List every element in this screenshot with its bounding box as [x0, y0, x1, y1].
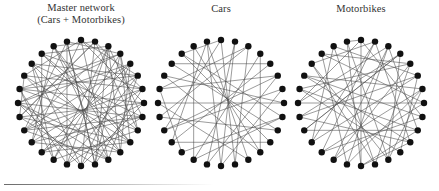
graph-node [78, 37, 84, 43]
graph-node [245, 43, 251, 49]
graph-node [105, 157, 111, 163]
graph-edge [207, 76, 278, 165]
graph-edge [108, 76, 137, 160]
graph-node [105, 43, 111, 49]
graph-node [135, 72, 141, 78]
graph-edge [20, 54, 121, 89]
graph-node [16, 86, 22, 92]
panel-master-network: Master network (Cars + Motorbikes) [8, 0, 154, 185]
graph-edge [20, 76, 25, 117]
graph-node [281, 100, 287, 106]
graph-node [419, 114, 425, 120]
graph-node [421, 100, 427, 106]
graph-node [245, 157, 251, 163]
graph-node [16, 114, 22, 120]
graph-node [78, 163, 84, 169]
graph-node [397, 51, 403, 57]
graph-node [29, 61, 35, 67]
graph-node [257, 51, 263, 57]
graph-node [397, 149, 403, 155]
graph-node [190, 43, 196, 49]
graph-node [117, 149, 123, 155]
graph-node [358, 163, 364, 169]
panel-motorbikes: Motorbikes [288, 0, 434, 185]
graph-node [295, 100, 301, 106]
graph-edge [95, 54, 120, 165]
graph-node [385, 157, 391, 163]
graph-node [275, 127, 281, 133]
graph-node [279, 114, 285, 120]
graph-node [156, 86, 162, 92]
graph-node [232, 38, 238, 44]
graph-node [169, 61, 175, 67]
graph-node [179, 51, 185, 57]
graph-node [344, 38, 350, 44]
graph-node [50, 157, 56, 163]
graph-node [156, 114, 162, 120]
graph-node [169, 139, 175, 145]
graph-edge [172, 42, 207, 143]
graph-node [92, 161, 98, 167]
graph-node [330, 157, 336, 163]
graph-motorbikes [288, 30, 434, 180]
graph-node [296, 86, 302, 92]
graph-node [50, 43, 56, 49]
graph-node [141, 100, 147, 106]
graph-node [21, 127, 27, 133]
network-figure: Master network (Cars + Motorbikes) Cars … [0, 0, 439, 191]
graph-cars [148, 30, 294, 180]
graph-node [204, 38, 210, 44]
graph-node [415, 72, 421, 78]
graph-node [257, 149, 263, 155]
graph-node [39, 149, 45, 155]
graph-svg-master-network [8, 30, 154, 180]
graph-edge [18, 103, 81, 166]
graph-edge [347, 46, 388, 164]
graph-node [64, 161, 70, 167]
graph-node [419, 86, 425, 92]
graph-node [407, 61, 413, 67]
graph-edge [160, 46, 249, 117]
panel-title-master-network: Master network (Cars + Motorbikes) [8, 2, 154, 26]
graph-node [127, 61, 133, 67]
graph-node [319, 51, 325, 57]
graph-node [415, 127, 421, 133]
panel-cars: Cars [148, 0, 294, 185]
graph-node [92, 38, 98, 44]
graph-node [267, 139, 273, 145]
graph-edge [182, 40, 221, 54]
graph-node [372, 38, 378, 44]
graph-node [296, 114, 302, 120]
graph-edge [95, 42, 142, 89]
graph-node [139, 86, 145, 92]
graph-edge [81, 40, 144, 103]
panel-title-motorbikes: Motorbikes [288, 3, 434, 15]
graph-node [190, 157, 196, 163]
graph-node [275, 72, 281, 78]
graph-edge [298, 40, 361, 103]
graph-node [232, 161, 238, 167]
graph-node [267, 61, 273, 67]
graph-node [39, 51, 45, 57]
graph-node [117, 51, 123, 57]
graph-node [319, 149, 325, 155]
graph-node [218, 163, 224, 169]
graph-node [279, 86, 285, 92]
graph-node [155, 100, 161, 106]
graph-edge [388, 46, 417, 130]
graph-node [179, 149, 185, 155]
graph-svg-motorbikes [288, 30, 434, 180]
graph-node [358, 37, 364, 43]
edge-group-motorbikes [298, 40, 424, 166]
graph-node [309, 139, 315, 145]
graph-node [407, 139, 413, 145]
graph-node [29, 139, 35, 145]
graph-node [127, 139, 133, 145]
graph-node [21, 72, 27, 78]
graph-edge [312, 64, 389, 160]
bottom-divider [4, 184, 214, 185]
graph-edge [347, 89, 422, 164]
graph-node [344, 161, 350, 167]
edge-group-cars [158, 40, 284, 166]
panel-title-cars: Cars [148, 3, 294, 15]
